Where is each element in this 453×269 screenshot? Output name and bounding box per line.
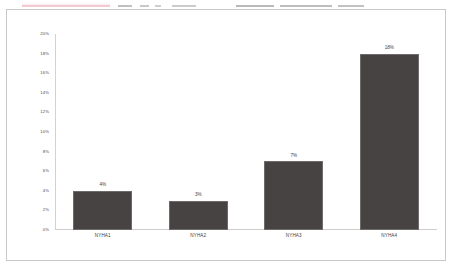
x-axis-tick-label: NYHA4 [342, 234, 438, 239]
x-axis-tick-label: NYHA2 [151, 234, 247, 239]
bar-group: 7% [264, 34, 323, 230]
y-axis-tick-label: 0% [23, 228, 49, 232]
y-axis-tick-label: 18% [23, 51, 49, 55]
bar[interactable] [169, 201, 228, 230]
bar-chart: 0%2%4%6%8%10%12%14%16%18%20% 4%3%7%18% N… [6, 9, 446, 261]
bar-group: 18% [360, 34, 419, 230]
y-axis-tick-label: 2% [23, 208, 49, 212]
y-axis: 0%2%4%6%8%10%12%14%16%18%20% [23, 34, 49, 230]
bar-value-label: 7% [264, 154, 323, 159]
y-axis-tick-label: 4% [23, 189, 49, 193]
y-axis-tick-label: 12% [23, 110, 49, 114]
header-text-fragment [280, 0, 332, 7]
header-text-fragment [172, 0, 196, 7]
plot-area: 4%3%7%18% [55, 34, 437, 230]
bar-group: 4% [73, 34, 132, 230]
chart-plot-wrapper: 0%2%4%6%8%10%12%14%16%18%20% 4%3%7%18% N… [7, 10, 445, 260]
header-text-fragment [236, 0, 274, 7]
bar-group: 3% [169, 34, 228, 230]
x-axis-tick-label: NYHA1 [55, 234, 151, 239]
x-axis-tick-label: NYHA3 [246, 234, 342, 239]
bar-value-label: 4% [73, 183, 132, 188]
bar-value-label: 18% [360, 46, 419, 51]
y-axis-tick-label: 14% [23, 91, 49, 95]
header-text-fragment [140, 0, 149, 7]
y-axis-tick-label: 8% [23, 149, 49, 153]
y-axis-tick-label: 6% [23, 169, 49, 173]
header-text-fragment [118, 0, 132, 7]
cropped-header-strip [0, 0, 453, 7]
accent-underline-fragment [22, 0, 110, 7]
header-text-fragment [338, 0, 364, 7]
y-axis-tick-label: 16% [23, 71, 49, 75]
bar[interactable] [360, 54, 419, 230]
y-axis-tick-label: 20% [23, 32, 49, 36]
header-text-fragment [155, 0, 161, 7]
bar[interactable] [264, 161, 323, 230]
y-axis-line [55, 34, 56, 230]
bar[interactable] [73, 191, 132, 230]
x-axis: NYHA1NYHA2NYHA3NYHA4 [55, 234, 437, 248]
y-axis-tick-label: 10% [23, 130, 49, 134]
bar-value-label: 3% [169, 193, 228, 198]
